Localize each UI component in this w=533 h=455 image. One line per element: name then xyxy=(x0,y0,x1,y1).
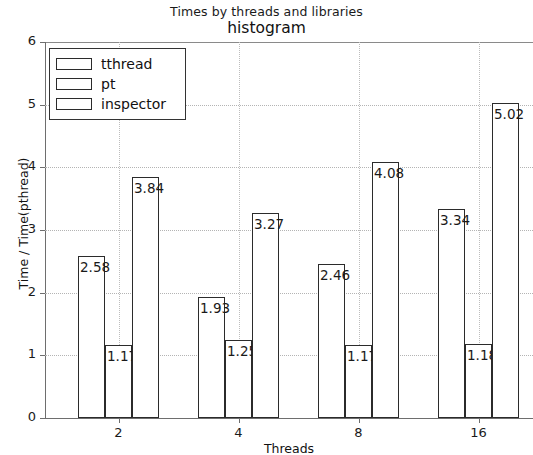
bar-tthread-2 xyxy=(78,256,105,418)
x-tick-label: 4 xyxy=(219,425,259,440)
chart-legend: tthreadptinspector xyxy=(49,48,186,120)
y-tick-label: 6 xyxy=(12,33,36,48)
y-tick-mark xyxy=(40,230,45,231)
bar-value-label: 3.84 xyxy=(134,180,164,196)
x-tick-mark xyxy=(239,418,240,423)
bar-value-label: 4.08 xyxy=(374,165,404,181)
y-axis-label: Time / Time(pthread) xyxy=(16,104,31,344)
x-tick-mark xyxy=(119,418,120,423)
y-tick-mark xyxy=(40,42,45,43)
bar-inspector-16 xyxy=(492,103,519,418)
bar-inspector-4 xyxy=(252,213,279,418)
bar-value-label: 1.93 xyxy=(200,300,230,316)
x-tick-mark xyxy=(359,418,360,423)
bar-value-label: 2.46 xyxy=(320,267,350,283)
legend-label: inspector xyxy=(101,97,166,111)
legend-label: tthread xyxy=(101,57,152,71)
x-tick-label: 8 xyxy=(339,425,379,440)
bar-tthread-8 xyxy=(318,264,345,418)
legend-item: tthread xyxy=(56,54,179,74)
x-axis-label: Threads xyxy=(45,441,533,455)
y-tick-label: 1 xyxy=(12,346,36,361)
chart-suptitle: Times by threads and libraries xyxy=(0,4,533,19)
x-tick-label: 2 xyxy=(99,425,139,440)
y-tick-mark xyxy=(40,167,45,168)
legend-item: inspector xyxy=(56,94,179,114)
bar-tthread-16 xyxy=(438,209,465,418)
y-tick-mark xyxy=(40,105,45,106)
y-tick-mark xyxy=(40,355,45,356)
x-tick-label: 16 xyxy=(459,425,499,440)
legend-swatch-icon xyxy=(56,98,92,110)
y-tick-label: 0 xyxy=(12,409,36,424)
bar-value-label: 2.58 xyxy=(80,259,110,275)
bar-inspector-2 xyxy=(132,177,159,418)
bar-value-label: 3.27 xyxy=(254,216,284,232)
chart-figure: Times by threads and libraries histogram… xyxy=(0,0,533,455)
legend-label: pt xyxy=(101,77,115,91)
bar-inspector-8 xyxy=(372,162,399,418)
y-tick-mark xyxy=(40,418,45,419)
legend-swatch-icon xyxy=(56,58,92,70)
legend-swatch-icon xyxy=(56,78,92,90)
legend-item: pt xyxy=(56,74,179,94)
chart-title: histogram xyxy=(0,19,533,37)
bar-value-label: 3.34 xyxy=(440,212,470,228)
y-tick-mark xyxy=(40,293,45,294)
bar-value-label: 5.02 xyxy=(494,106,524,122)
x-tick-mark xyxy=(479,418,480,423)
